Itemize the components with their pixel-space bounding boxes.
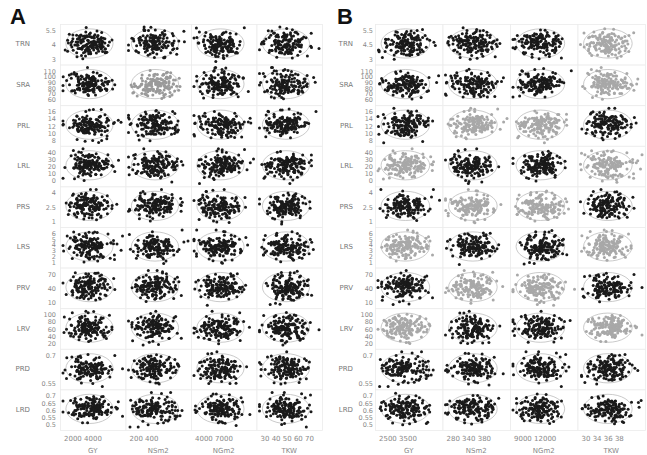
scatter-cell-lrv-tkw: [578, 309, 646, 350]
scatter-cell-lrd-nsm2: [126, 390, 192, 431]
row-label-lrl: LRL: [4, 162, 30, 170]
y-tick-label: 80: [34, 319, 56, 326]
row-label-prl: PRL: [327, 122, 353, 130]
x-tick-labels-nsm2: 280 340 380: [447, 436, 492, 443]
y-tick-label: 3: [34, 57, 56, 64]
x-tick-labels-tkw: 30 34 36 38: [582, 436, 624, 443]
scatter-cell-lrv-gy: [376, 309, 444, 350]
scatter-cell-trn-tkw: [257, 25, 323, 66]
scatter-cell-prv-tkw: [578, 268, 646, 309]
scatter-cell-lrd-ngm2: [511, 390, 579, 431]
y-tick-label: 3: [351, 57, 373, 64]
scatter-cell-lrs-tkw: [578, 228, 646, 269]
x-tick-labels-gy: 2000 4000: [64, 436, 102, 443]
panel-b-letter: B: [337, 6, 353, 28]
y-tick-label: 1: [351, 219, 373, 226]
column-label-gy: GY: [60, 447, 126, 455]
scatter-cell-trn-ngm2: [511, 25, 579, 66]
column-label-tkw: TKW: [578, 447, 644, 455]
scatter-cell-lrs-gy: [61, 228, 127, 269]
row-label-prd: PRD: [4, 365, 30, 373]
scatter-cell-lrv-nsm2: [443, 309, 511, 350]
scatter-cell-prl-ngm2: [192, 106, 258, 147]
scatter-cell-lrd-gy: [376, 390, 444, 431]
scatter-cell-lrv-ngm2: [511, 309, 579, 350]
scatter-cell-prd-tkw: [257, 349, 323, 390]
scatter-cell-prs-ngm2: [511, 187, 579, 228]
scatter-cell-lrl-tkw: [257, 146, 323, 187]
scatter-cell-prs-tkw: [257, 187, 323, 228]
y-tick-label: 0.7: [34, 353, 56, 360]
x-tick-labels-ngm2: 9000 12000: [514, 436, 556, 443]
scatter-cell-prl-gy: [61, 106, 127, 147]
row-label-lrs: LRS: [327, 243, 353, 251]
scatter-cell-lrl-nsm2: [443, 146, 511, 187]
row-label-prl: PRL: [4, 122, 30, 130]
scatter-cell-lrl-tkw: [578, 146, 646, 187]
y-tick-label: 4: [351, 190, 373, 197]
x-tick-labels-gy: 2500 3500: [379, 436, 417, 443]
scatter-cell-sra-ngm2: [192, 65, 258, 106]
y-tick-label: 0: [351, 178, 373, 185]
row-label-lrs: LRS: [4, 243, 30, 251]
scatter-cell-lrs-gy: [376, 228, 444, 269]
y-tick-label: 8: [351, 138, 373, 145]
panel-b: B TRN5.54.53SRA11010090807060PRL16141210…: [325, 0, 647, 455]
scatter-cell-prv-tkw: [257, 268, 323, 309]
scatter-cell-prd-ngm2: [511, 349, 579, 390]
scatter-cell-prd-tkw: [578, 349, 646, 390]
scatter-cell-lrs-nsm2: [126, 228, 192, 269]
scatter-cell-lrd-gy: [61, 390, 127, 431]
y-tick-label: 0: [34, 178, 56, 185]
column-label-nsm2: NSm2: [443, 447, 509, 455]
scatter-cell-prd-gy: [376, 349, 444, 390]
scatter-cell-trn-nsm2: [443, 25, 511, 66]
x-tick-labels-nsm2: 200 400: [130, 436, 159, 443]
y-tick-label: 1: [34, 260, 56, 267]
row-label-lrd: LRD: [4, 406, 30, 414]
scatter-cell-prl-tkw: [257, 106, 323, 147]
y-tick-label: 2.5: [351, 205, 373, 212]
panel-a: A TRN5.543SRA11010090807060PRL161412108L…: [0, 0, 325, 455]
scatter-cell-prl-gy: [376, 106, 444, 147]
scatter-cell-prd-nsm2: [443, 349, 511, 390]
scatter-cell-prs-nsm2: [126, 187, 192, 228]
scatter-cell-prv-nsm2: [443, 268, 511, 309]
row-label-prv: PRV: [4, 284, 30, 292]
scatter-cell-lrl-gy: [61, 146, 127, 187]
y-tick-label: 60: [34, 97, 56, 104]
x-tick-labels-ngm2: 4000 7000: [195, 436, 233, 443]
row-label-prd: PRD: [327, 365, 353, 373]
scatter-cell-lrv-nsm2: [126, 309, 192, 350]
y-tick-label: 40: [351, 286, 373, 293]
scatter-cell-lrl-nsm2: [126, 146, 192, 187]
scatter-cell-lrs-ngm2: [192, 228, 258, 269]
y-tick-label: 8: [34, 138, 56, 145]
scatter-cell-trn-ngm2: [192, 25, 258, 66]
y-tick-label: 1: [351, 260, 373, 267]
scatter-cell-sra-tkw: [257, 65, 323, 106]
row-label-lrv: LRV: [327, 325, 353, 333]
y-tick-label: 60: [351, 97, 373, 104]
y-tick-label: 0.5: [34, 422, 56, 429]
y-tick-label: 10: [34, 300, 56, 307]
scatter-cell-lrv-gy: [61, 309, 127, 350]
y-tick-label: 0.7: [34, 393, 56, 400]
row-label-prs: PRS: [4, 203, 30, 211]
scatter-cell-sra-gy: [376, 65, 444, 106]
y-tick-label: 10: [351, 300, 373, 307]
scatter-cell-prl-ngm2: [511, 106, 579, 147]
column-label-ngm2: NGm2: [511, 447, 577, 455]
column-label-tkw: TKW: [256, 447, 322, 455]
y-tick-label: 0.5: [351, 422, 373, 429]
scatter-cell-prd-nsm2: [126, 349, 192, 390]
column-label-nsm2: NSm2: [125, 447, 191, 455]
row-label-sra: SRA: [327, 81, 353, 89]
scatter-cell-lrl-gy: [376, 146, 444, 187]
scatter-cell-prs-nsm2: [443, 187, 511, 228]
scatter-cell-lrs-nsm2: [443, 228, 511, 269]
scatter-cell-lrs-ngm2: [511, 228, 579, 269]
y-tick-label: 2.5: [34, 205, 56, 212]
scatter-cell-prd-ngm2: [192, 349, 258, 390]
y-tick-label: 5.5: [351, 28, 373, 35]
